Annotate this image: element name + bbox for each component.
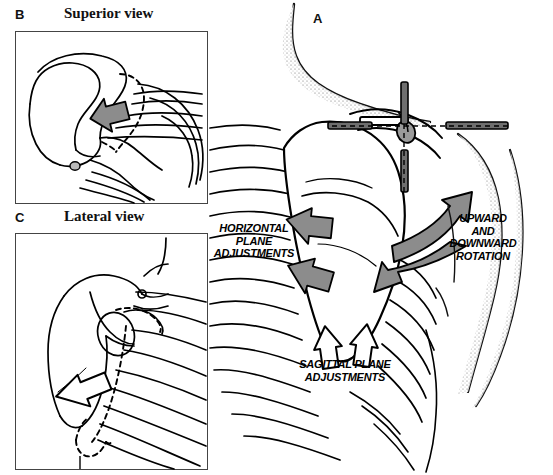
rib-a-9	[210, 301, 298, 314]
figure-root: B Superior view	[0, 0, 553, 475]
caption-upward-downward-rotation: UPWARD AND DOWNWARD ROTATION	[432, 212, 534, 262]
humerus-shaft-lateral	[158, 238, 166, 274]
torso-line-2	[362, 406, 408, 452]
clavicle-medial-end	[29, 104, 60, 165]
rib-c-4	[124, 350, 206, 376]
panel-b-box	[15, 31, 208, 204]
rib-c-7	[104, 406, 206, 446]
arm-torso-contour	[458, 134, 523, 408]
panel-c-illustration	[16, 234, 207, 469]
panel-b-title: Superior view	[64, 6, 153, 21]
scapular-body-edge	[100, 137, 162, 170]
rib-a-15	[244, 436, 340, 460]
torso-line-1	[350, 392, 400, 434]
panel-b-illustration	[16, 32, 207, 203]
rib-a-13	[222, 392, 318, 416]
vertical-axis-rod	[401, 82, 408, 124]
thorax-contour-2	[150, 98, 199, 184]
rib-a-10	[210, 324, 302, 340]
rib-c-8	[100, 424, 200, 466]
rib-a-14	[232, 414, 328, 438]
rib-c-5	[116, 370, 206, 400]
humeral-head-marker	[70, 162, 80, 170]
acromion-superior-border	[64, 275, 142, 296]
humerus-head-top	[144, 264, 168, 276]
panel-c-label: C	[15, 211, 24, 224]
scapula-inferior-angle	[60, 416, 82, 428]
panel-b-label: B	[15, 8, 24, 21]
rib-c-3	[132, 330, 206, 350]
rib-c-9	[98, 440, 174, 469]
rib-a-1	[210, 125, 280, 130]
caption-horizontal-plane: HORIZONTAL PLANE ADJUSTMENTS	[200, 222, 308, 260]
flank-contour	[426, 330, 437, 472]
scapula-dashed-inferior-2	[76, 440, 106, 456]
scapula-dashed-inferior-3	[106, 441, 114, 443]
scapula-displaced-dashed-2	[102, 142, 116, 152]
panel-c-box	[15, 233, 208, 470]
rib-lower-3	[80, 188, 134, 203]
torso-line-3	[374, 424, 414, 470]
rib-a-8	[210, 279, 294, 288]
caption-sagittal-plane: SAGITTAL PLANE ADJUSTMENTS	[272, 358, 418, 383]
rib-a-2	[210, 146, 284, 151]
rib-lower-2	[86, 180, 144, 202]
panel-c-title: Lateral view	[64, 209, 144, 224]
panel-b-gray-arrow	[86, 94, 131, 136]
rib-line-2	[132, 101, 202, 104]
arm-inner-2	[436, 288, 448, 316]
glenoid-border	[106, 336, 134, 346]
rib-a-3	[210, 168, 288, 173]
panel-c-white-arrow	[52, 365, 115, 417]
rib-a-4	[210, 190, 290, 195]
rib-a-5	[210, 212, 290, 217]
clavicle-lower-border	[30, 63, 100, 150]
